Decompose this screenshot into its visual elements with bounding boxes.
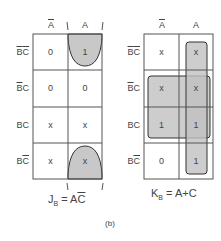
jb-cell: 0: [33, 83, 68, 93]
jb-row-label-0: BC: [5, 47, 29, 57]
kb-row-label-2: BC: [116, 120, 140, 130]
jb-cell: x: [33, 156, 68, 166]
jb-col-label-a: A: [78, 20, 92, 30]
kb-row-label-3: BC: [116, 156, 140, 166]
jb-cell: 0: [33, 47, 68, 57]
figure-caption: (b): [100, 219, 120, 228]
jb-cell: x: [33, 120, 68, 130]
jb-cell: 0: [68, 83, 102, 93]
kb-cell: 0: [144, 156, 179, 166]
jb-cell: x: [68, 120, 102, 130]
jb-cell: x: [68, 156, 102, 166]
kb-row-label-0: BC: [116, 47, 140, 57]
kb-cell: x: [179, 47, 213, 57]
kb-col-label-a: A: [189, 20, 203, 30]
kb-cell: x: [179, 83, 213, 93]
kb-col-label-a-bar: A: [155, 20, 169, 30]
kb-cell: x: [144, 47, 179, 57]
jb-cell: 1: [68, 47, 102, 57]
kb-cell: 1: [179, 120, 213, 130]
jb-col-label-a-bar: A: [44, 20, 58, 30]
jb-row-label-2: BC: [5, 120, 29, 130]
kb-cell: 1: [179, 156, 213, 166]
jb-equation: JB = AC: [48, 193, 85, 207]
kb-cell: x: [144, 83, 179, 93]
kb-equation: KB = A+C: [151, 187, 197, 201]
jb-row-label-3: BC: [5, 156, 29, 166]
kb-cell: 1: [144, 120, 179, 130]
jb-row-label-1: BC: [5, 83, 29, 93]
kb-row-label-1: BC: [116, 83, 140, 93]
kb-group-col-a: [186, 42, 207, 174]
